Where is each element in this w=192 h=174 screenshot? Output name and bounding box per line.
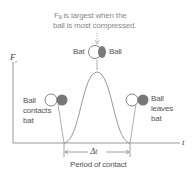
leave-label-2: leaves <box>151 104 173 113</box>
contact-label-1: Ball <box>23 96 36 105</box>
peak-bat-label: Bat <box>73 47 84 56</box>
leave-label-1: Ball <box>151 94 164 103</box>
bat-circle-leave <box>126 94 138 106</box>
peak-ball-label: Ball <box>109 47 122 56</box>
ball-compressed <box>98 46 106 58</box>
delta-t-symbol: Δt <box>90 147 97 156</box>
force-curve <box>64 72 130 143</box>
annotation-line-1: Fₐ is largest when the <box>54 11 126 20</box>
contact-label-2: contacts <box>23 106 51 115</box>
annotation-line-2: ball is most compressed. <box>53 21 136 30</box>
leave-leader <box>130 104 136 143</box>
x-axis-label: t <box>182 138 184 147</box>
y-axis-subscript: r <box>15 59 17 64</box>
ball-leave <box>138 95 149 106</box>
leave-label-3: bat <box>151 114 162 123</box>
period-of-contact-label: Period of contact <box>70 160 127 169</box>
y-axis-label: Fr <box>10 53 17 66</box>
ball-contact <box>57 95 68 106</box>
contact-label-3: bat <box>23 116 34 125</box>
bat-circle-contact <box>45 94 57 106</box>
contact-leader <box>58 104 64 143</box>
